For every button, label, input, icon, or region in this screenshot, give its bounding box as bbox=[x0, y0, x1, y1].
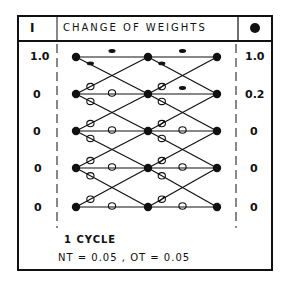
weight-mark-circle bbox=[179, 164, 186, 170]
weight-mark-circle bbox=[179, 203, 186, 209]
network-node bbox=[72, 90, 80, 98]
cycle-label: 1 CYCLE bbox=[64, 234, 116, 245]
network-node bbox=[213, 90, 221, 98]
weight-mark-circle bbox=[108, 203, 115, 209]
network-node bbox=[72, 127, 80, 135]
network-node bbox=[144, 203, 152, 211]
input-column-header: I bbox=[30, 21, 36, 35]
network-node bbox=[72, 53, 80, 61]
input-value-1: 1.0 bbox=[30, 50, 50, 63]
output-value-3: 0 bbox=[250, 125, 258, 138]
weight-mark-circle bbox=[108, 164, 115, 170]
output-value-2: 0.2 bbox=[245, 88, 265, 101]
weight-change-diagram bbox=[0, 0, 288, 287]
weight-marks bbox=[87, 50, 186, 210]
network-node bbox=[144, 90, 152, 98]
network-node bbox=[213, 53, 221, 61]
input-value-4: 0 bbox=[34, 162, 42, 175]
weight-mark-dash bbox=[180, 87, 186, 90]
network-node bbox=[144, 53, 152, 61]
network-node bbox=[213, 164, 221, 172]
diagram-title: CHANGE OF WEIGHTS bbox=[63, 22, 207, 33]
output-value-4: 0 bbox=[250, 162, 258, 175]
input-value-2: 0 bbox=[33, 88, 41, 101]
network-node bbox=[213, 127, 221, 135]
weight-mark-circle bbox=[108, 90, 115, 96]
network-node bbox=[144, 164, 152, 172]
input-value-3: 0 bbox=[33, 125, 41, 138]
weight-mark-dash bbox=[180, 50, 186, 53]
weight-mark-dash bbox=[87, 62, 93, 65]
input-value-5: 0 bbox=[34, 201, 42, 214]
network-node bbox=[72, 203, 80, 211]
weight-mark-dash bbox=[109, 50, 115, 53]
network-node bbox=[144, 127, 152, 135]
output-value-1: 1.0 bbox=[245, 50, 265, 63]
network-node bbox=[72, 164, 80, 172]
network-node bbox=[213, 203, 221, 211]
output-value-5: 0 bbox=[250, 201, 258, 214]
output-header-icon bbox=[250, 23, 260, 33]
network-nodes bbox=[72, 53, 221, 211]
weight-mark-circle bbox=[179, 127, 186, 133]
weight-mark-dash bbox=[159, 62, 165, 65]
threshold-params: NT = 0.05 , OT = 0.05 bbox=[58, 252, 190, 263]
weight-mark-circle bbox=[108, 127, 115, 133]
